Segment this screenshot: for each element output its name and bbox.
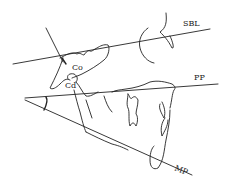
ramus-inner [86, 96, 112, 118]
label-co: Co [72, 63, 83, 72]
sella-outline [160, 13, 173, 48]
pp-line [25, 84, 218, 98]
label-sbl: SBL [183, 19, 200, 28]
ramus-outline [74, 82, 98, 132]
sbl-line [13, 29, 210, 64]
maxillary-incisor [159, 102, 164, 118]
mandible-outline [86, 132, 128, 150]
gonial-angle-arc [44, 97, 47, 110]
cephalometric-diagram: SBL PP MP Co Cd [0, 0, 231, 189]
symphysis-outline [150, 110, 170, 169]
label-cd: Cd [65, 81, 76, 90]
label-pp: PP [194, 73, 205, 82]
maxillary-molar [127, 94, 138, 126]
maxilla-outline [112, 81, 175, 108]
label-mp: MP [173, 164, 190, 178]
cranial-base-outline [60, 45, 109, 78]
tracing-svg: SBL PP MP Co Cd [0, 0, 231, 189]
orbit-curve [139, 28, 154, 63]
